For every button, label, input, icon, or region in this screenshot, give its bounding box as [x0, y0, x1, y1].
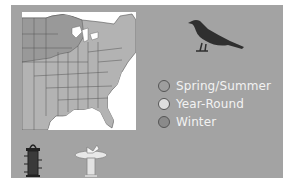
winter-swatch-icon: [158, 116, 170, 128]
range-map[interactable]: [22, 12, 136, 130]
legend-label: Winter: [176, 115, 216, 129]
bird-icon: [186, 17, 248, 57]
legend-item-winter[interactable]: Winter: [158, 113, 271, 131]
season-legend: Spring/Summer Year-Round Winter: [158, 77, 271, 131]
bird-bath-icon[interactable]: [71, 141, 111, 179]
legend-label: Spring/Summer: [176, 79, 271, 93]
spring-summer-swatch-icon: [158, 80, 170, 92]
range-panel: Spring/Summer Year-Round Winter: [11, 5, 283, 178]
legend-item-year-round[interactable]: Year-Round: [158, 95, 271, 113]
legend-item-spring-summer[interactable]: Spring/Summer: [158, 77, 271, 95]
bird-feeder-icon[interactable]: [23, 142, 43, 178]
legend-label: Year-Round: [176, 97, 244, 111]
year-round-swatch-icon: [158, 98, 170, 110]
